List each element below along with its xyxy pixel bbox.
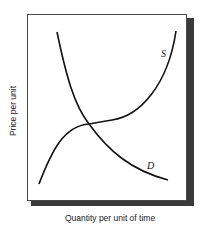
supply-curve <box>39 31 176 184</box>
y-axis-label: Price per unit <box>8 86 18 136</box>
demand-curve <box>57 32 168 180</box>
demand-label: D <box>146 160 155 171</box>
x-axis-label: Quantity per unit of time <box>65 213 155 223</box>
supply-label: S <box>161 48 166 59</box>
plot-area: S D <box>0 0 203 226</box>
